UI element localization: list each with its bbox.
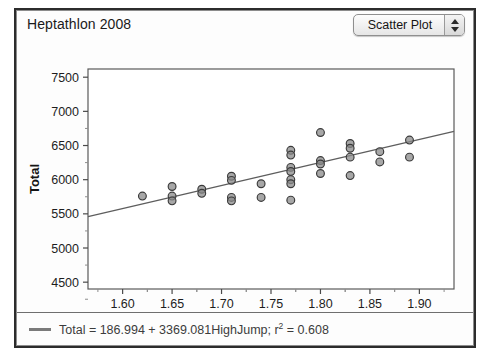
svg-text:1.85: 1.85 — [358, 297, 382, 311]
svg-text:6500: 6500 — [51, 139, 79, 153]
svg-text:5500: 5500 — [51, 207, 79, 221]
svg-text:1.90: 1.90 — [407, 297, 431, 311]
regression-legend: Total = 186.994 + 3369.081HighJump; r2 =… — [17, 312, 473, 345]
regression-equation-prefix: Total = 186.994 + 3369.081HighJump; r — [59, 323, 279, 337]
scatter-plot-chart: 45005000550060006500700075001.601.651.70… — [17, 41, 473, 317]
window-inner-border: Heptathlon 2008 Scatter Plot 45005000550… — [16, 10, 474, 346]
svg-text:1.70: 1.70 — [209, 297, 233, 311]
plot-type-value: Scatter Plot — [354, 18, 444, 32]
page-title: Heptathlon 2008 — [27, 16, 131, 32]
svg-text:1.60: 1.60 — [110, 297, 134, 311]
svg-text:6000: 6000 — [51, 173, 79, 187]
regression-line-swatch — [29, 328, 51, 331]
regression-equation: Total = 186.994 + 3369.081HighJump; r2 =… — [59, 321, 329, 337]
svg-text:7000: 7000 — [51, 105, 79, 119]
svg-text:7500: 7500 — [51, 71, 79, 85]
stepper-down-icon[interactable] — [451, 27, 459, 32]
svg-text:5000: 5000 — [51, 242, 79, 256]
svg-text:Total: Total — [27, 164, 42, 194]
regression-equation-suffix: = 0.608 — [283, 323, 329, 337]
plot-type-dropdown[interactable]: Scatter Plot — [353, 14, 465, 36]
svg-text:1.80: 1.80 — [308, 297, 332, 311]
svg-text:1.65: 1.65 — [160, 297, 184, 311]
plot-titlebar: Heptathlon 2008 Scatter Plot — [17, 11, 473, 41]
svg-text:4500: 4500 — [51, 276, 79, 290]
stepper-up-icon[interactable] — [451, 19, 459, 24]
scatter-plot-svg: 45005000550060006500700075001.601.651.70… — [17, 41, 475, 317]
svg-text:1.75: 1.75 — [259, 297, 283, 311]
stepper-control[interactable] — [444, 15, 464, 35]
plot-window: Heptathlon 2008 Scatter Plot 45005000550… — [14, 8, 476, 348]
